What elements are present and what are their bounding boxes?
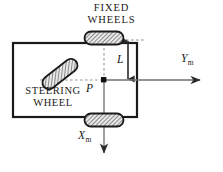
steering-wheel-label: STEERING WHEEL [14,85,92,109]
origin-point-marker [101,77,106,82]
axis-ym-subscript: m [188,58,194,67]
axis-xm-label: Xm [78,129,91,145]
fixed-wheels-label: FIXED WHEELS [0,2,223,26]
origin-point-label: P [86,82,93,95]
fixed-wheel-rear [85,114,124,127]
dimension-l-label: L [117,53,124,66]
fixed-wheel-front [85,32,124,45]
axis-ym-label: Ym [181,52,194,68]
robot-kinematic-diagram: FIXED WHEELS STEERING WHEEL Ym Xm L P [0,0,223,172]
axis-xm-subscript: m [85,135,91,144]
axis-ym-symbol: Y [181,52,188,64]
